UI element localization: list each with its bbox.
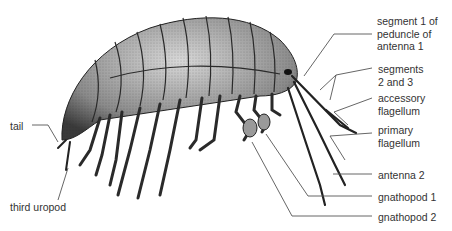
label-antenna-2: antenna 2 <box>378 169 425 182</box>
amphipod-diagram: segment 1 of peduncle of antenna 1 segme… <box>0 0 452 231</box>
label-segment-1-peduncle: segment 1 of peduncle of antenna 1 <box>377 15 438 53</box>
label-gnathopod-1: gnathopod 1 <box>378 191 436 204</box>
label-accessory-flagellum: accessory flagellum <box>378 92 425 117</box>
antennae <box>288 76 356 205</box>
label-gnathopod-2: gnathopod 2 <box>378 211 436 224</box>
label-tail: tail <box>10 120 23 133</box>
eye-icon <box>284 69 292 75</box>
label-primary-flagellum: primary flagellum <box>378 124 420 149</box>
label-third-uropod: third uropod <box>10 201 66 214</box>
label-segments-2-3: segments 2 and 3 <box>378 63 424 88</box>
